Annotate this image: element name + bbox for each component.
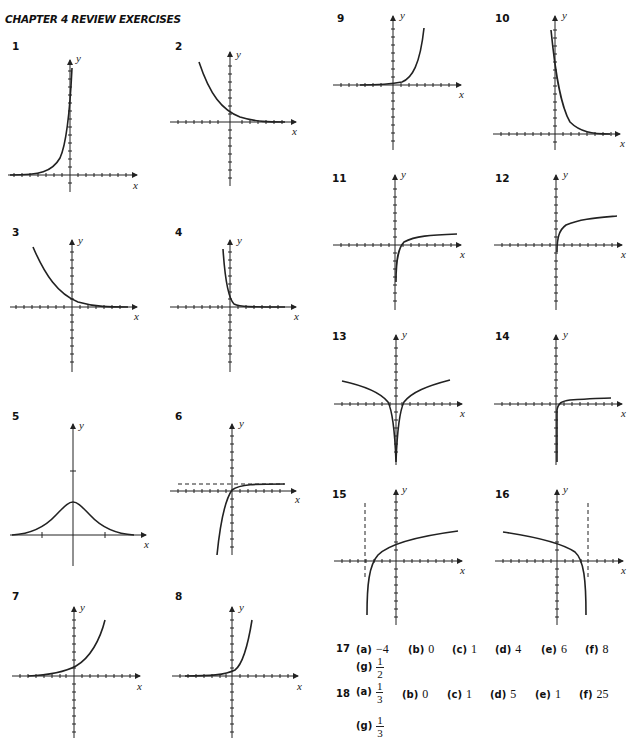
part-label: (e) bbox=[541, 644, 557, 655]
answer-17g: (g)12 bbox=[356, 655, 384, 680]
part-value: 1 bbox=[555, 687, 561, 701]
answer-18b: (b)0 bbox=[402, 687, 428, 702]
answer-18g: (g)13 bbox=[356, 714, 384, 739]
part-value: 8 bbox=[603, 642, 609, 656]
answer-17-row1: 17 bbox=[336, 642, 350, 654]
part-label: (b) bbox=[408, 644, 424, 655]
part-value: 0 bbox=[422, 687, 428, 701]
part-label: (c) bbox=[452, 644, 467, 655]
answer-18c: (c)1 bbox=[447, 687, 472, 702]
answer-17c: (c)1 bbox=[452, 642, 477, 657]
svg-text:y: y bbox=[562, 483, 568, 495]
denominator: 3 bbox=[376, 727, 384, 739]
answer-17d: (d)4 bbox=[495, 642, 521, 657]
part-label: (g) bbox=[356, 720, 372, 731]
part-value: −4 bbox=[376, 642, 389, 656]
part-label: (b) bbox=[402, 689, 418, 700]
svg-text:x: x bbox=[296, 680, 302, 692]
graph-16: yx bbox=[0, 0, 639, 640]
part-value: 4 bbox=[515, 642, 521, 656]
fraction: 13 bbox=[376, 680, 384, 705]
part-label: (d) bbox=[490, 689, 506, 700]
fraction: 13 bbox=[376, 714, 384, 739]
answer-17f: (f)8 bbox=[585, 642, 609, 657]
part-value: 5 bbox=[510, 687, 516, 701]
part-value: 1 bbox=[471, 642, 477, 656]
part-value: 6 bbox=[561, 642, 567, 656]
denominator: 2 bbox=[376, 668, 384, 680]
answer-18a: (a)13 bbox=[356, 680, 383, 705]
part-value: 0 bbox=[428, 642, 434, 656]
numerator: 1 bbox=[376, 680, 384, 693]
answer-18d: (d)5 bbox=[490, 687, 516, 702]
answer-18-row1: 18 bbox=[336, 687, 350, 699]
svg-text:x: x bbox=[620, 564, 626, 576]
part-label: (g) bbox=[356, 661, 372, 672]
part-label: (d) bbox=[495, 644, 511, 655]
denominator: 3 bbox=[376, 693, 384, 705]
answer-18f: (f)25 bbox=[579, 687, 609, 702]
answer-number: 17 bbox=[336, 643, 350, 654]
part-value: 25 bbox=[597, 687, 609, 701]
numerator: 1 bbox=[376, 714, 384, 727]
answer-18e: (e)1 bbox=[535, 687, 561, 702]
part-label: (f) bbox=[579, 689, 593, 700]
answer-17e: (e)6 bbox=[541, 642, 567, 657]
answer-17b: (b)0 bbox=[408, 642, 434, 657]
fraction: 12 bbox=[376, 655, 384, 680]
part-label: (f) bbox=[585, 644, 599, 655]
part-value: 1 bbox=[466, 687, 472, 701]
part-label: (a) bbox=[356, 644, 372, 655]
part-label: (a) bbox=[356, 686, 372, 697]
numerator: 1 bbox=[376, 655, 384, 668]
part-label: (c) bbox=[447, 689, 462, 700]
part-label: (e) bbox=[535, 689, 551, 700]
answer-number: 18 bbox=[336, 688, 350, 699]
